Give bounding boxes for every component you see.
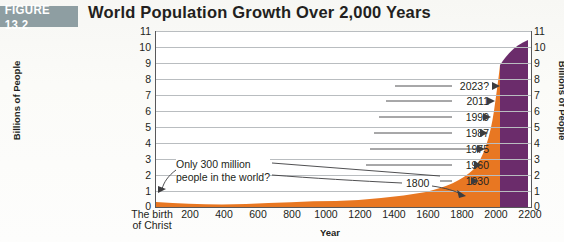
figure-badge: FIGURE 13.2 (0, 6, 78, 27)
gridline-11 (156, 31, 531, 32)
milestone-label-1960: 1960 (455, 160, 489, 171)
y-tick-right-1: 1 (534, 186, 554, 196)
y-tick-left-6: 6 (131, 106, 151, 116)
annotation-300-million-line2: people in the world? (176, 171, 270, 184)
annotation-1800: 1800 (404, 177, 431, 189)
y-tick-right-9: 9 (534, 58, 554, 68)
milestone-label-1975: 1975 (455, 144, 489, 155)
page-title: World Population Growth Over 2,000 Years (88, 3, 431, 22)
y-tick-right-3: 3 (534, 154, 554, 164)
y-tick-left-1: 1 (131, 186, 151, 196)
x-tick-2200: 2200 (508, 209, 552, 220)
y-tick-left-4: 4 (131, 138, 151, 148)
milestone-label-2011: 2011 (455, 96, 489, 107)
y-tick-right-8: 8 (534, 74, 554, 84)
projected-area-path (500, 40, 528, 207)
y-tick-right-11: 11 (534, 26, 554, 36)
gridline-1 (156, 191, 531, 192)
gridline-10 (156, 47, 531, 48)
y-tick-left-11: 11 (131, 26, 151, 36)
figure-badge-label: FIGURE 13.2 (5, 2, 74, 32)
y-tick-right-7: 7 (534, 90, 554, 100)
y-tick-right-4: 4 (534, 138, 554, 148)
milestone-label-1930: 1930 (455, 176, 489, 187)
annotation-300-million: Only 300 million people in the world? (176, 158, 270, 183)
y-tick-left-3: 3 (131, 154, 151, 164)
y-tick-right-5: 5 (534, 122, 554, 132)
historical-area-path (156, 65, 500, 207)
y-tick-left-7: 7 (131, 90, 151, 100)
figure-container: FIGURE 13.2 World Population Growth Over… (0, 0, 564, 242)
milestone-label-1987: 1987 (455, 128, 489, 139)
y-tick-left-5: 5 (131, 122, 151, 132)
y-tick-right-10: 10 (534, 42, 554, 52)
y-tick-right-2: 2 (534, 170, 554, 180)
y-tick-left-10: 10 (131, 42, 151, 52)
y-tick-left-8: 8 (131, 74, 151, 84)
milestone-label-1999: 1999 (455, 112, 489, 123)
gridline-9 (156, 63, 531, 64)
x-axis-title: Year (300, 227, 360, 238)
annotation-300-million-line1: Only 300 million (176, 158, 270, 171)
y-axis-title-left: Billions of People (11, 51, 22, 151)
y-tick-left-2: 2 (131, 170, 151, 180)
y-axis-title-right: Billions of People (557, 51, 564, 151)
x-tick-origin-line2: of Christ (126, 220, 178, 231)
y-tick-left-9: 9 (131, 58, 151, 68)
milestone-label-2023: 2023? (455, 81, 489, 92)
y-tick-right-6: 6 (534, 106, 554, 116)
